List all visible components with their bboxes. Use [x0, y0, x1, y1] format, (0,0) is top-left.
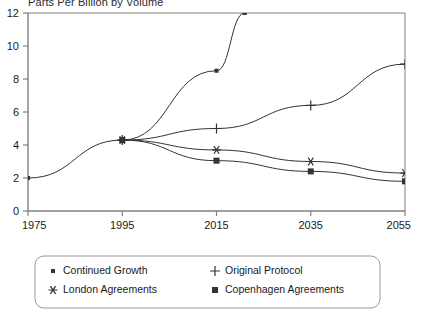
legend-label: Continued Growth	[63, 264, 148, 276]
series-marker	[402, 178, 408, 184]
series-marker	[119, 137, 125, 143]
series-original-protocol	[117, 59, 410, 145]
x-tick-label: 2015	[204, 219, 228, 231]
legend-item-copenhagen-agreements[interactable]: Copenhagen Agreements	[212, 283, 344, 295]
legend-marker-square	[212, 287, 218, 293]
series-line	[122, 140, 405, 181]
legend-marker-plus	[210, 266, 220, 276]
chart-container: Parts Per Billion by Volume 024681012197…	[0, 0, 421, 315]
legend-label: Copenhagen Agreements	[225, 283, 344, 295]
chart-canvas: 02468101219751995201520352055Continued G…	[0, 0, 421, 315]
legend-label: Original Protocol	[225, 264, 303, 276]
y-tick-label: 10	[7, 40, 19, 52]
legend-item-london-agreements[interactable]: London Agreements	[49, 283, 158, 295]
x-tick-label: 1975	[22, 219, 46, 231]
series-london-agreements	[118, 136, 410, 177]
series-marker	[308, 168, 314, 174]
legend-marker-dot	[51, 269, 55, 273]
y-tick-label: 6	[13, 106, 19, 118]
series-marker	[212, 146, 221, 154]
series-marker	[214, 158, 220, 164]
y-tick-label: 12	[7, 7, 19, 19]
y-tick-label: 2	[13, 172, 19, 184]
legend: Continued GrowthOriginal ProtocolLondon …	[35, 256, 380, 308]
series-marker	[306, 158, 315, 166]
series-line	[122, 64, 405, 140]
legend-marker-asterisk	[49, 286, 58, 294]
x-tick-label: 2035	[299, 219, 323, 231]
series-line	[122, 140, 405, 173]
series-marker	[400, 59, 410, 69]
legend-item-original-protocol[interactable]: Original Protocol	[210, 264, 303, 276]
series-marker	[215, 69, 219, 73]
series-marker	[212, 124, 222, 134]
legend-item-continued-growth[interactable]: Continued Growth	[51, 264, 148, 276]
y-tick-label: 8	[13, 73, 19, 85]
x-tick-label: 1995	[110, 219, 134, 231]
legend-label: London Agreements	[63, 283, 157, 295]
series-marker	[306, 100, 316, 110]
series-marker	[243, 11, 247, 15]
y-tick-label: 0	[13, 205, 19, 217]
x-tick-label: 2055	[387, 219, 411, 231]
series-continued-growth	[26, 11, 247, 180]
y-tick-label: 4	[13, 139, 19, 151]
series-line	[28, 13, 245, 178]
